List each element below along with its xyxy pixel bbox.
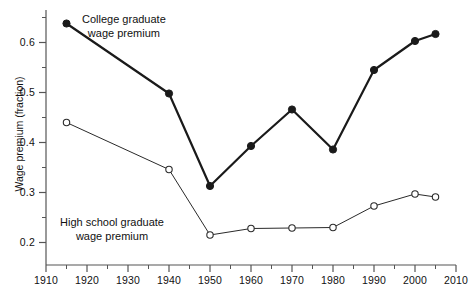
- x-axis-tick-label: 1910: [24, 274, 68, 286]
- series-data-point: [288, 106, 295, 113]
- series-data-point: [432, 194, 438, 200]
- series-data-point: [330, 224, 336, 230]
- x-axis-tick-label: 2000: [393, 274, 437, 286]
- series-data-point: [411, 37, 418, 44]
- x-axis-tick-label: 1980: [311, 274, 355, 286]
- series-data-point: [371, 203, 377, 209]
- series-data-point: [370, 66, 377, 73]
- series-data-point: [247, 142, 254, 149]
- series-data-point: [166, 166, 172, 172]
- series-data-point: [165, 90, 172, 97]
- y-axis-tick-label: 0.2: [0, 236, 35, 248]
- x-axis-tick-label: 1940: [147, 274, 191, 286]
- y-axis-tick-label: 0.5: [0, 86, 35, 98]
- college-series-annotation: College graduate wage premium: [82, 12, 166, 40]
- x-axis-tick-label: 1930: [106, 274, 150, 286]
- x-axis-tick-label: 1970: [270, 274, 314, 286]
- series-data-point: [63, 119, 69, 125]
- highschool-series-annotation: High school graduate wage premium: [60, 215, 164, 243]
- series-data-point: [248, 225, 254, 231]
- chart-series-group: [63, 20, 439, 238]
- y-axis-tick-label: 0.3: [0, 186, 35, 198]
- series-data-point: [206, 182, 213, 189]
- x-axis-tick-label: 1960: [229, 274, 273, 286]
- series-data-point: [412, 191, 418, 197]
- y-axis-tick-label: 0.4: [0, 136, 35, 148]
- series-data-point: [207, 232, 213, 238]
- series-data-point: [329, 146, 336, 153]
- x-axis-tick-label: 1920: [65, 274, 109, 286]
- y-axis-tick-label: 0.6: [0, 36, 35, 48]
- series-data-point: [289, 225, 295, 231]
- series-data-point: [432, 30, 439, 37]
- x-axis-tick-label: 1950: [188, 274, 232, 286]
- x-axis-tick-label: 1990: [352, 274, 396, 286]
- series-line: [67, 24, 436, 187]
- chart-series: [63, 20, 439, 190]
- series-data-point: [63, 20, 70, 27]
- x-axis-tick-label: 2010: [434, 274, 473, 286]
